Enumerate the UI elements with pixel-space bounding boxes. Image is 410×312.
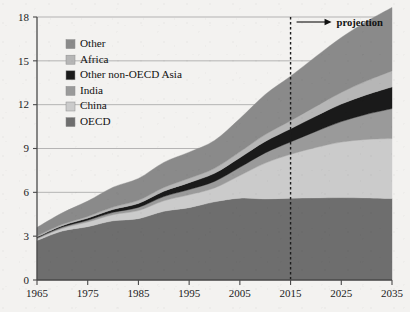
x-tick-label-1995: 1995 xyxy=(178,287,201,299)
projection-label: projection xyxy=(337,17,383,28)
y-tick-label-15: 15 xyxy=(18,55,30,67)
x-axis-ticks: 19651975198519952005201520252035 xyxy=(26,280,404,299)
legend-label-china: China xyxy=(80,99,107,111)
legend-swatch-oecd xyxy=(66,118,75,127)
cropped-title-sliver xyxy=(0,0,410,8)
y-tick-label-6: 6 xyxy=(24,186,30,198)
y-tick-label-0: 0 xyxy=(24,274,30,286)
legend-label-other: Other xyxy=(80,37,106,49)
y-tick-label-3: 3 xyxy=(24,230,30,242)
x-tick-label-2015: 2015 xyxy=(280,287,303,299)
y-tick-label-9: 9 xyxy=(24,142,30,154)
x-tick-label-2035: 2035 xyxy=(381,287,404,299)
legend-swatch-india xyxy=(66,86,75,95)
x-tick-label-2005: 2005 xyxy=(229,287,252,299)
y-axis-ticks: 0369121518 xyxy=(18,11,37,286)
x-tick-label-1975: 1975 xyxy=(77,287,100,299)
y-tick-label-12: 12 xyxy=(18,98,29,110)
legend-label-africa: Africa xyxy=(80,53,109,65)
legend-swatch-other-non-oecd-asia xyxy=(66,71,75,80)
legend-swatch-other xyxy=(66,40,75,49)
legend-label-oecd: OECD xyxy=(80,115,110,127)
x-tick-label-1965: 1965 xyxy=(26,287,49,299)
y-tick-label-18: 18 xyxy=(18,11,30,23)
legend-swatch-africa xyxy=(66,55,75,64)
stacked-area-chart: projection 0369121518 196519751985199520… xyxy=(0,0,410,312)
legend-label-india: India xyxy=(80,84,103,96)
legend-swatch-china xyxy=(66,102,75,111)
x-tick-label-2025: 2025 xyxy=(330,287,353,299)
legend-label-other-non-oecd-asia: Other non-OECD Asia xyxy=(80,68,182,80)
chart-container: projection 0369121518 196519751985199520… xyxy=(0,0,410,312)
x-tick-label-1985: 1985 xyxy=(127,287,150,299)
